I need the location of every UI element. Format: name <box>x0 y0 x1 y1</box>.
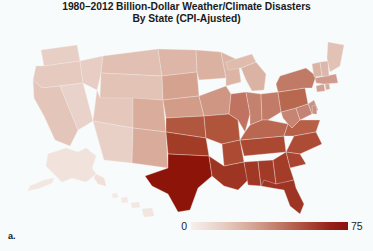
legend-max-label: 75 <box>351 220 373 233</box>
state-new-york <box>276 68 316 92</box>
state-maine <box>327 42 344 72</box>
state-alaska <box>46 148 96 182</box>
chart-title-line-2: By State (CPI-Ajusted) <box>0 13 373 25</box>
state-montana <box>101 49 162 76</box>
state-alaska-panhandle <box>94 174 106 186</box>
state-nebraska <box>163 96 204 118</box>
state-connecticut <box>316 84 325 92</box>
state-hawaii-big-island <box>142 208 154 217</box>
state-colorado <box>133 98 166 132</box>
chart-title-line-1: 1980–2012 Billion-Dollar Weather/Climate… <box>0 1 373 13</box>
state-iowa <box>199 86 231 116</box>
state-north-dakota <box>158 49 197 76</box>
state-alaska-aleutians <box>28 178 54 191</box>
state-south-dakota <box>162 72 199 100</box>
figure-panel: 1980–2012 Billion-Dollar Weather/Climate… <box>0 0 373 251</box>
us-map-svg <box>0 28 373 218</box>
color-legend: 0 75 <box>0 219 373 235</box>
state-hawaii-oahu <box>121 197 128 203</box>
chart-title: 1980–2012 Billion-Dollar Weather/Climate… <box>0 1 373 26</box>
state-hawaii-maui <box>131 202 140 208</box>
state-missouri <box>204 114 240 144</box>
state-arizona <box>93 121 133 163</box>
state-wyoming <box>100 73 163 100</box>
state-hawaii-kauai <box>112 193 118 198</box>
legend-gradient-bar <box>191 222 348 230</box>
state-arkansas <box>222 140 244 166</box>
legend-min-label: 0 <box>173 220 187 233</box>
state-ohio <box>261 92 281 120</box>
state-delaware <box>312 105 317 114</box>
state-florida <box>261 180 304 214</box>
choropleth-map <box>0 28 373 218</box>
state-new-mexico <box>132 128 168 168</box>
panel-label: a. <box>8 231 16 242</box>
